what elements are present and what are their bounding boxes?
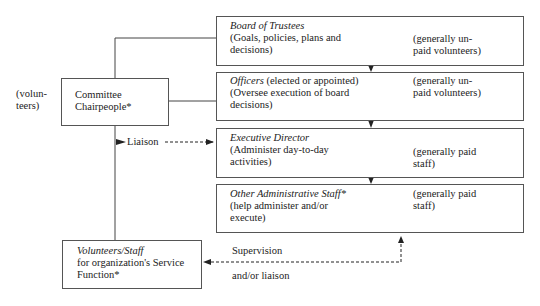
officers-note1: (generally un- <box>413 75 472 87</box>
board-desc2: decisions) <box>230 44 273 56</box>
supervision-arrowhead-up <box>398 236 404 243</box>
board-note2: paid volunteers) <box>413 45 481 57</box>
board-of-trustees-box: Board of Trustees (Goals, policies, plan… <box>216 16 524 66</box>
other-administrative-staff-box: Other Administrative Staff* (help admini… <box>216 184 524 233</box>
executive-director-box: Executive Director (Administer day-to-da… <box>216 128 524 178</box>
arrow-officers-executive <box>368 120 374 128</box>
arrow-board-officers <box>368 65 374 72</box>
committee-chairpeople-box: Committee Chairpeople* <box>61 78 169 126</box>
arrow-executive-other <box>368 177 374 184</box>
board-title: Board of Trustees <box>230 20 304 32</box>
board-desc1: (Goals, policies, plans and <box>230 32 341 44</box>
executive-desc1: (Administer day-to-day <box>230 144 329 156</box>
executive-desc2: activities) <box>230 156 271 168</box>
side-label-line1: (volun- <box>16 88 47 100</box>
executive-title: Executive Director <box>230 132 309 144</box>
officers-title-line: Officers (elected or appointed) <box>230 75 359 87</box>
supervision-arrowhead-left <box>203 259 211 265</box>
officers-title: Officers <box>230 75 264 86</box>
executive-note1: (generally paid <box>413 146 476 158</box>
committee-line2: Chairpeople* <box>75 101 132 113</box>
committee-line1: Committee <box>75 89 122 101</box>
volunteers-title: Volunteers/Staff <box>77 245 144 257</box>
officers-box: Officers (elected or appointed) (Oversee… <box>216 72 524 121</box>
board-note1: (generally un- <box>413 33 472 45</box>
volunteers-desc1: for organization's Service <box>77 257 184 269</box>
other-staff-title: Other Administrative Staff* <box>230 188 346 200</box>
officers-title-rest: (elected or appointed) <box>264 75 359 86</box>
executive-note2: staff) <box>413 158 435 170</box>
other-staff-desc1: (help administer and/or <box>230 200 328 212</box>
liaison-arrowhead-left <box>116 139 126 145</box>
line-committee-board <box>115 38 216 78</box>
side-label-line2: teers) <box>16 100 47 112</box>
other-staff-note2: staff) <box>413 200 435 212</box>
officers-desc2: decisions) <box>230 99 273 111</box>
volunteers-desc2: Function* <box>77 269 120 281</box>
other-staff-desc2: execute) <box>230 212 266 224</box>
volunteers-staff-box: Volunteers/Staff for organization's Serv… <box>62 240 202 289</box>
side-label: (volun- teers) <box>16 88 47 112</box>
other-staff-note1: (generally paid <box>413 188 476 200</box>
liaison-label-2: and/or liaison <box>232 270 289 282</box>
officers-desc1: (Oversee execution of board <box>230 87 349 99</box>
supervision-label: Supervision <box>232 245 282 257</box>
liaison-label: Liaison <box>127 136 159 148</box>
officers-note2: paid volunteers) <box>413 87 481 99</box>
